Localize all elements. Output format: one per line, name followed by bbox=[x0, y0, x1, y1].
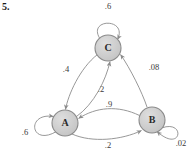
node-B[interactable]: B bbox=[139, 107, 165, 133]
edge-label-B-to-C: .08 bbox=[149, 62, 160, 72]
problem-number-label: 5. bbox=[2, 1, 10, 12]
edge-B-to-C bbox=[121, 55, 148, 108]
state-diagram-svg: C A B .6 .6 .02 .4 .2 .08 .9 .2 bbox=[0, 0, 196, 154]
edge-label-B-to-A: .9 bbox=[106, 99, 112, 109]
node-C-label: C bbox=[104, 42, 111, 53]
node-C[interactable]: C bbox=[95, 35, 121, 61]
node-B-label: B bbox=[149, 114, 156, 125]
edge-A-to-B bbox=[72, 131, 142, 140]
nodes-layer: C A B bbox=[52, 35, 165, 136]
edge-label-A-to-B: .2 bbox=[105, 140, 111, 150]
edge-label-A-self: .6 bbox=[22, 127, 28, 137]
edge-label-A-to-C: .2 bbox=[98, 84, 104, 94]
edge-C-to-A bbox=[66, 55, 98, 110]
markov-chain-figure: 5. bbox=[0, 0, 196, 154]
edge-label-B-self: .02 bbox=[176, 138, 187, 148]
edge-label-C-to-A: .4 bbox=[63, 64, 70, 74]
node-A[interactable]: A bbox=[52, 110, 78, 136]
edge-B-to-A bbox=[79, 109, 140, 119]
node-A-label: A bbox=[61, 117, 69, 128]
edge-label-C-self: .6 bbox=[105, 1, 111, 11]
